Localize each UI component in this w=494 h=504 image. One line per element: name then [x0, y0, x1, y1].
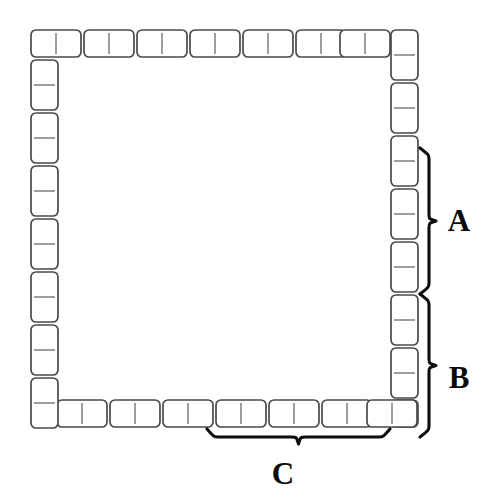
- brace-label-a: A: [448, 203, 471, 238]
- domino-tile: [163, 400, 213, 427]
- domino-group-bottom-row: [57, 400, 417, 427]
- domino-tile: [243, 30, 293, 57]
- domino-tile: [391, 242, 418, 292]
- domino-tile: [391, 295, 418, 345]
- domino-tile: [31, 378, 58, 428]
- domino-tile: [216, 400, 266, 427]
- domino-tile: [296, 30, 346, 57]
- domino-tile: [391, 30, 418, 80]
- domino-tile: [340, 30, 390, 57]
- domino-tile: [269, 400, 319, 427]
- domino-tile: [31, 272, 58, 322]
- domino-tile: [31, 60, 58, 110]
- domino-tile: [31, 219, 58, 269]
- domino-tile: [84, 30, 134, 57]
- domino-ring-figure: A B C: [0, 0, 494, 504]
- domino-group-left-column: [31, 60, 58, 428]
- domino-tile: [367, 400, 417, 427]
- domino-tile: [110, 400, 160, 427]
- figure-canvas: A B C: [0, 0, 494, 504]
- brace-label-c: C: [272, 456, 294, 491]
- domino-group-right-column: [391, 30, 418, 427]
- domino-tile: [391, 83, 418, 133]
- domino-tile: [391, 189, 418, 239]
- domino-tile: [57, 400, 107, 427]
- domino-tile: [391, 348, 418, 398]
- domino-group-top-row: [31, 30, 390, 57]
- domino-tile: [31, 325, 58, 375]
- domino-tile: [31, 30, 81, 57]
- brace-label-b: B: [449, 360, 470, 395]
- domino-tile: [190, 30, 240, 57]
- domino-tile: [31, 166, 58, 216]
- domino-tile: [137, 30, 187, 57]
- domino-tile: [31, 113, 58, 163]
- domino-tile: [391, 136, 418, 186]
- domino-tile: [322, 400, 372, 427]
- figure-background: [0, 0, 494, 504]
